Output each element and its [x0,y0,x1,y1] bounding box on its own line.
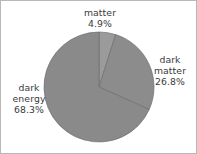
slice-label-dark-energy: dark energy 68.3% [2,82,56,116]
slice-label-dark-matter-name-2: matter [143,65,197,76]
slice-label-dark-matter-name-1: dark [143,54,197,65]
slice-label-dark-energy-value: 68.3% [2,104,56,115]
slice-label-dark-energy-name-1: dark [2,82,56,93]
slice-label-matter-name: matter [64,7,136,18]
slice-label-matter: matter 4.9% [64,7,136,29]
pie-chart-figure: matter 4.9% dark matter 26.8% dark energ… [0,0,197,154]
pie-slices-group [44,32,154,142]
slice-label-matter-value: 4.9% [64,18,136,29]
slice-label-dark-matter: dark matter 26.8% [143,54,197,88]
slice-label-dark-energy-name-2: energy [2,93,56,104]
slice-label-dark-matter-value: 26.8% [143,76,197,87]
